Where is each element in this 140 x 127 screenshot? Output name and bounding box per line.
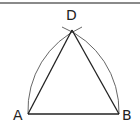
arc-centered-b xyxy=(28,27,82,114)
segment-ad xyxy=(28,30,72,114)
label-d: D xyxy=(66,7,77,23)
triangle-construction-diagram: D A B xyxy=(0,0,140,127)
label-b: B xyxy=(122,107,132,123)
label-a: A xyxy=(13,107,23,123)
segment-bd xyxy=(72,30,119,114)
arc-centered-a xyxy=(62,27,119,114)
